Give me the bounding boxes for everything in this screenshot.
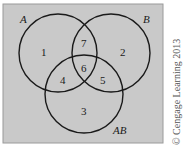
region-label-1: 1 [41, 46, 47, 58]
set-label-b: B [143, 13, 150, 25]
region-label-3: 3 [81, 105, 87, 117]
set-label-ab: AB [112, 124, 127, 136]
region-label-5: 5 [100, 74, 106, 86]
set-label-a: A [19, 13, 27, 25]
region-label-6: 6 [81, 62, 87, 74]
region-label-7: 7 [81, 37, 87, 49]
region-label-2: 2 [120, 46, 126, 58]
region-label-4: 4 [60, 74, 66, 86]
venn-diagram: A B AB 1 2 3 4 5 6 7 © Cengage Learning … [0, 0, 186, 150]
copyright-notice: © Cengage Learning 2013 [171, 39, 182, 145]
